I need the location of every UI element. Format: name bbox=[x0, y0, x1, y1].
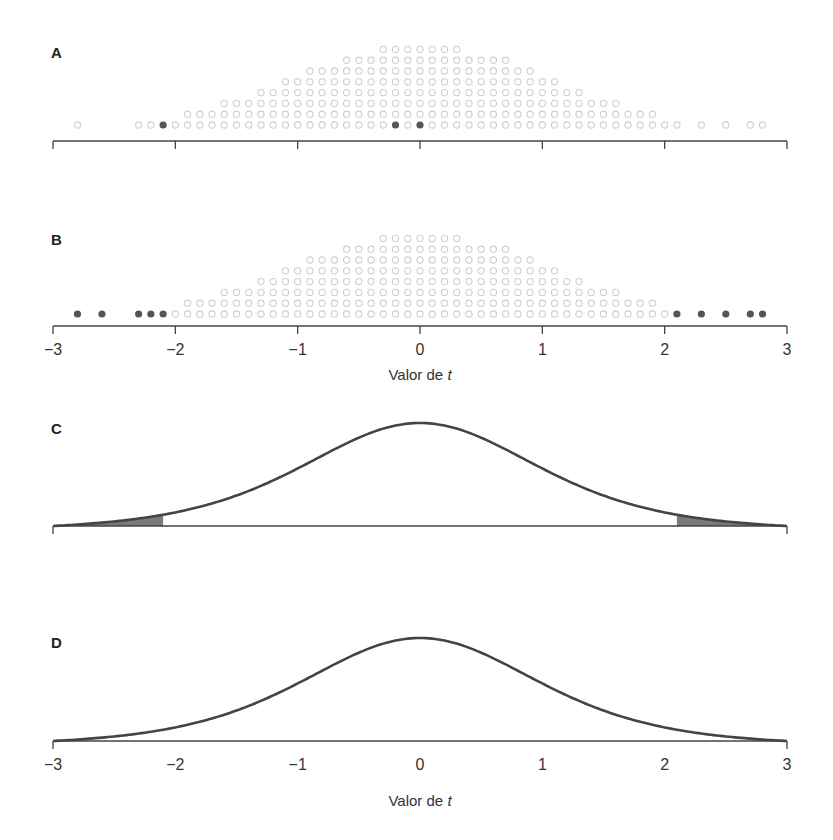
hollow-dot bbox=[368, 79, 374, 85]
hollow-dot bbox=[576, 122, 582, 128]
hollow-dot bbox=[503, 311, 509, 317]
hollow-dot bbox=[282, 311, 288, 317]
hollow-dot bbox=[221, 122, 227, 128]
hollow-dot bbox=[588, 122, 594, 128]
hollow-dot bbox=[588, 111, 594, 117]
hollow-dot bbox=[344, 100, 350, 106]
hollow-dot bbox=[392, 111, 398, 117]
hollow-dot bbox=[441, 300, 447, 306]
hollow-dot bbox=[564, 111, 570, 117]
hollow-dot bbox=[331, 100, 337, 106]
hollow-dot bbox=[527, 100, 533, 106]
hollow-dot bbox=[380, 111, 386, 117]
hollow-dot bbox=[319, 79, 325, 85]
hollow-dot bbox=[503, 122, 509, 128]
hollow-dot bbox=[417, 57, 423, 63]
hollow-dot bbox=[551, 100, 557, 106]
hollow-dot bbox=[466, 90, 472, 96]
hollow-dot bbox=[233, 111, 239, 117]
hollow-dot bbox=[417, 257, 423, 263]
hollow-dot bbox=[490, 122, 496, 128]
hollow-dot bbox=[466, 311, 472, 317]
hollow-dot bbox=[380, 246, 386, 252]
hollow-dot bbox=[466, 100, 472, 106]
hollow-dot bbox=[344, 311, 350, 317]
hollow-dot bbox=[466, 111, 472, 117]
hollow-dot bbox=[441, 111, 447, 117]
hollow-dot bbox=[270, 90, 276, 96]
hollow-dot bbox=[233, 311, 239, 317]
hollow-dot bbox=[564, 289, 570, 295]
tick-label: −2 bbox=[166, 341, 184, 358]
hollow-dot bbox=[503, 57, 509, 63]
hollow-dot bbox=[490, 279, 496, 285]
hollow-dot bbox=[441, 57, 447, 63]
hollow-dot bbox=[429, 79, 435, 85]
hollow-dot bbox=[197, 300, 203, 306]
hollow-dot bbox=[221, 300, 227, 306]
hollow-dot bbox=[551, 300, 557, 306]
tick-label: −1 bbox=[289, 756, 307, 773]
hollow-dot bbox=[515, 279, 521, 285]
hollow-dot bbox=[600, 122, 606, 128]
hollow-dot bbox=[405, 100, 411, 106]
hollow-dot bbox=[527, 300, 533, 306]
hollow-dot bbox=[478, 79, 484, 85]
hollow-dot bbox=[356, 100, 362, 106]
hollow-dot bbox=[282, 90, 288, 96]
hollow-dot bbox=[368, 122, 374, 128]
hollow-dot bbox=[588, 311, 594, 317]
hollow-dot bbox=[539, 79, 545, 85]
hollow-dot bbox=[503, 268, 509, 274]
hollow-dot bbox=[600, 289, 606, 295]
tick-label: 0 bbox=[416, 341, 425, 358]
hollow-dot bbox=[429, 90, 435, 96]
hollow-dot bbox=[209, 122, 215, 128]
highlighted-dot bbox=[147, 310, 154, 317]
hollow-dot bbox=[466, 268, 472, 274]
hollow-dot bbox=[527, 111, 533, 117]
hollow-dot bbox=[405, 311, 411, 317]
hollow-dot bbox=[392, 100, 398, 106]
hollow-dot bbox=[380, 68, 386, 74]
hollow-dot bbox=[564, 279, 570, 285]
hollow-dot bbox=[564, 122, 570, 128]
hollow-dot bbox=[380, 300, 386, 306]
hollow-dot bbox=[392, 300, 398, 306]
hollow-dot bbox=[478, 57, 484, 63]
hollow-dot bbox=[466, 289, 472, 295]
hollow-dot bbox=[356, 68, 362, 74]
hollow-dot bbox=[515, 90, 521, 96]
hollow-dot bbox=[221, 100, 227, 106]
highlighted-dot bbox=[759, 310, 766, 317]
panel-c-label: C bbox=[51, 420, 62, 437]
highlighted-dot bbox=[673, 310, 680, 317]
hollow-dot bbox=[454, 235, 460, 241]
hollow-dot bbox=[319, 90, 325, 96]
hollow-dot bbox=[417, 46, 423, 52]
hollow-dot bbox=[344, 268, 350, 274]
hollow-dot bbox=[307, 68, 313, 74]
hollow-dot bbox=[527, 268, 533, 274]
hollow-dot bbox=[258, 289, 264, 295]
hollow-dot bbox=[270, 279, 276, 285]
hollow-dot bbox=[551, 90, 557, 96]
hollow-dot bbox=[368, 68, 374, 74]
hollow-dot bbox=[344, 90, 350, 96]
hollow-dot bbox=[527, 68, 533, 74]
hollow-dot bbox=[637, 122, 643, 128]
hollow-dot bbox=[527, 79, 533, 85]
hollow-dot bbox=[478, 289, 484, 295]
hollow-dot bbox=[356, 122, 362, 128]
hollow-dot bbox=[270, 289, 276, 295]
hollow-dot bbox=[576, 111, 582, 117]
hollow-dot bbox=[429, 279, 435, 285]
hollow-dot bbox=[539, 90, 545, 96]
hollow-dot bbox=[282, 100, 288, 106]
hollow-dot bbox=[490, 57, 496, 63]
hollow-dot bbox=[392, 57, 398, 63]
hollow-dot bbox=[246, 100, 252, 106]
hollow-dot bbox=[417, 79, 423, 85]
hollow-dot bbox=[405, 57, 411, 63]
hollow-dot bbox=[490, 68, 496, 74]
